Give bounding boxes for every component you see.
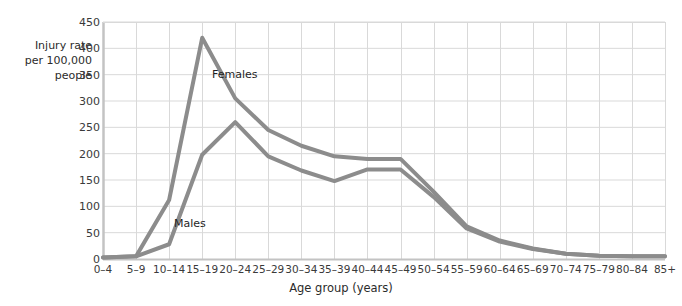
x-axis-tick-label: 80–84 [616,263,648,275]
y-axis-tick-label: 300 [66,95,100,108]
x-axis-tick-label: 0–4 [94,263,113,275]
x-axis-tick-label: 25–29 [252,263,284,275]
injury-rate-line-chart: Injury rate per 100,000 people 050100150… [0,0,682,306]
y-axis-tick-labels: 050100150200250300350400450 [60,0,100,306]
x-axis-tick-label: 50–54 [418,263,450,275]
y-axis-tick-label: 450 [66,16,100,29]
x-axis-tick-label: 60–64 [484,263,516,275]
x-axis-tick-label: 55–59 [451,263,483,275]
plot-area [0,0,682,306]
y-axis-tick-label: 150 [66,174,100,187]
x-axis-tick-label: 70–74 [550,263,582,275]
series-label-males: Males [174,217,206,230]
y-axis-tick-label: 350 [66,68,100,81]
series-label-females: Females [212,68,258,81]
series-line-males [103,122,665,257]
x-axis-tick-label: 20–24 [219,263,251,275]
x-axis-tick-labels: 0–45–910–1415–1920–2425–2930–3435–3940–4… [0,263,682,283]
y-axis-tick-label: 200 [66,147,100,160]
x-axis-tick-label: 75–79 [583,263,615,275]
x-axis-tick-label: 30–34 [285,263,317,275]
x-axis-tick-label: 85+ [654,263,676,275]
bottom-margin-spacer [0,296,682,306]
x-axis-tick-label: 15–19 [186,263,218,275]
y-axis-tick-label: 400 [66,42,100,55]
x-axis-tick-label: 45–49 [385,263,417,275]
y-axis-tick-label: 250 [66,121,100,134]
y-axis-tick-label: 50 [66,226,100,239]
x-axis-tick-label: 40–44 [351,263,383,275]
x-axis-tick-label: 35–39 [318,263,350,275]
x-axis-tick-label: 65–69 [517,263,549,275]
x-axis-tick-label: 5–9 [127,263,146,275]
x-axis-tick-label: 10–14 [153,263,185,275]
x-axis-title: Age group (years) [0,281,682,295]
y-axis-tick-label: 100 [66,200,100,213]
